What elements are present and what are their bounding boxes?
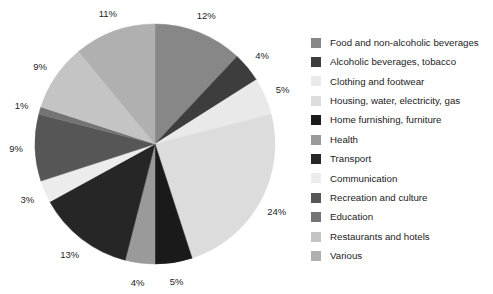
pie-slice-label: 4% bbox=[255, 50, 269, 61]
pie-slice-label: 24% bbox=[267, 206, 286, 217]
legend-color-swatch bbox=[311, 115, 321, 125]
legend-item[interactable]: Alcoholic beverages, tobacco bbox=[311, 52, 491, 71]
chart-legend: Food and non-alcoholic beveragesAlcoholi… bbox=[311, 33, 491, 266]
legend-color-swatch bbox=[311, 38, 321, 48]
legend-item-label: Health bbox=[330, 135, 358, 145]
pie-slice-label: 1% bbox=[15, 100, 29, 111]
legend-item-label: Restaurants and hotels bbox=[330, 232, 430, 242]
legend-item[interactable]: Various bbox=[311, 246, 491, 265]
legend-item-label: Education bbox=[330, 212, 373, 222]
pie-slice-label: 5% bbox=[170, 276, 184, 287]
legend-item[interactable]: Home furnishing, furniture bbox=[311, 111, 491, 130]
legend-color-swatch bbox=[311, 57, 321, 67]
legend-item[interactable]: Health bbox=[311, 130, 491, 149]
legend-item-label: Recreation and culture bbox=[330, 193, 427, 203]
legend-color-swatch bbox=[311, 212, 321, 222]
legend-item-label: Communication bbox=[330, 174, 397, 184]
legend-item[interactable]: Transport bbox=[311, 149, 491, 168]
legend-item-label: Transport bbox=[330, 154, 371, 164]
legend-color-swatch bbox=[311, 76, 321, 86]
pie-chart-figure: 12%4%5%24%5%4%13%3%9%1%9%11% Food and no… bbox=[0, 0, 493, 294]
legend-item[interactable]: Clothing and footwear bbox=[311, 72, 491, 91]
pie-slice-label: 13% bbox=[60, 248, 79, 259]
pie-slice-label: 9% bbox=[33, 60, 47, 71]
legend-item-label: Food and non-alcoholic beverages bbox=[330, 38, 479, 48]
pie-slice-label: 12% bbox=[197, 9, 216, 20]
pie-chart-svg bbox=[0, 0, 300, 294]
legend-color-swatch bbox=[311, 193, 321, 203]
legend-item[interactable]: Housing, water, electricity, gas bbox=[311, 91, 491, 110]
legend-item-label: Clothing and footwear bbox=[330, 77, 424, 87]
pie-slice-label: 5% bbox=[276, 83, 290, 94]
legend-item[interactable]: Food and non-alcoholic beverages bbox=[311, 33, 491, 52]
legend-color-swatch bbox=[311, 173, 321, 183]
legend-color-swatch bbox=[311, 154, 321, 164]
legend-color-swatch bbox=[311, 251, 321, 261]
legend-item-label: Alcoholic beverages, tobacco bbox=[330, 57, 456, 67]
legend-item[interactable]: Education bbox=[311, 208, 491, 227]
legend-color-swatch bbox=[311, 232, 321, 242]
legend-item[interactable]: Restaurants and hotels bbox=[311, 227, 491, 246]
legend-item-label: Housing, water, electricity, gas bbox=[330, 96, 460, 106]
pie-slice-label: 9% bbox=[9, 143, 23, 154]
legend-color-swatch bbox=[311, 96, 321, 106]
legend-color-swatch bbox=[311, 135, 321, 145]
pie-slice-label: 4% bbox=[131, 276, 145, 287]
pie-slice-label: 3% bbox=[21, 194, 35, 205]
legend-item[interactable]: Recreation and culture bbox=[311, 188, 491, 207]
pie-slice-label: 11% bbox=[99, 8, 117, 19]
legend-item-label: Various bbox=[330, 251, 362, 261]
pie-chart-plot-area: 12%4%5%24%5%4%13%3%9%1%9%11% bbox=[0, 0, 300, 294]
legend-item[interactable]: Communication bbox=[311, 169, 491, 188]
legend-item-label: Home furnishing, furniture bbox=[330, 115, 441, 125]
